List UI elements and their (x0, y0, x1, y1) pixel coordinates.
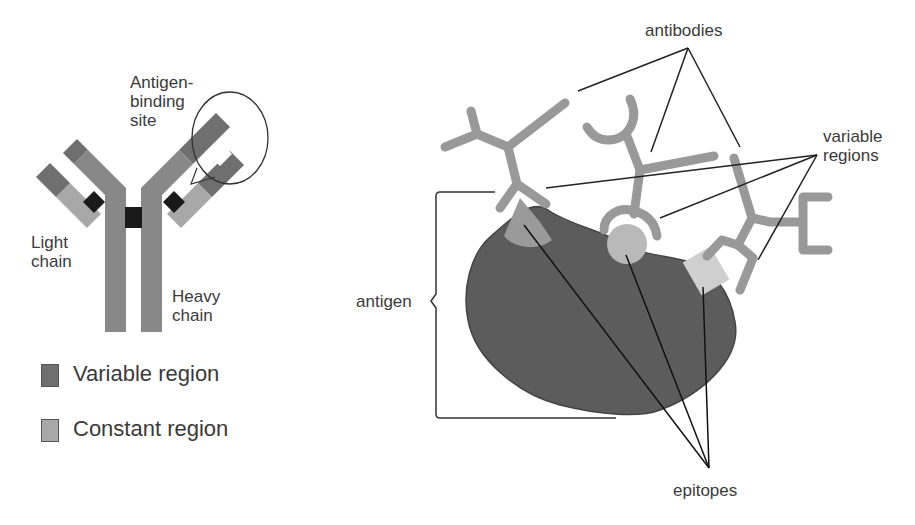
legend-label-variable: Variable region (73, 362, 219, 387)
antigen-binding-site-label: Antigen- binding site (130, 73, 193, 130)
legend-swatch-variable (41, 364, 59, 387)
variable-regions-label: variable regions (823, 127, 883, 165)
heavy-chain-left (74, 150, 126, 332)
antibody-2 (587, 99, 714, 236)
antibodies-label: antibodies (645, 21, 723, 40)
legend-label-constant: Constant region (73, 417, 228, 442)
hinge-disulfide (125, 207, 142, 228)
light-chain-label: Light chain (31, 233, 72, 271)
antibody-3 (707, 158, 828, 290)
heavy-chain-label: Heavy chain (172, 287, 220, 325)
legend-swatch-constant (41, 419, 59, 442)
antigen-label: antigen (356, 292, 412, 311)
epitopes-label: epitopes (673, 481, 737, 500)
antigen-antibody-binding (431, 48, 828, 468)
